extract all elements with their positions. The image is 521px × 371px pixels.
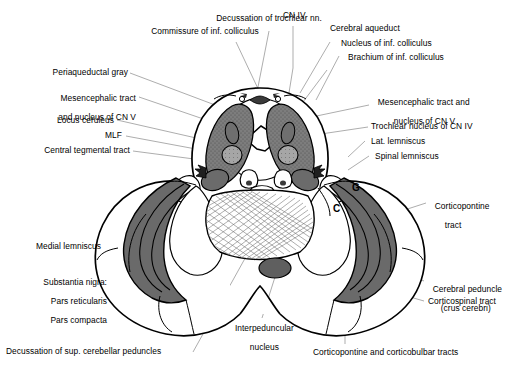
label-brachium-of-inf-colliculus: Brachium of inf. colliculus	[348, 53, 444, 63]
label-central-tegmental-tract: Central tegmental tract	[0, 146, 130, 156]
label-corticopontine-and-corticobulbar-tracts: Corticopontine and corticobulbar tracts	[313, 348, 458, 358]
label-corticospinal-tract: Corticospinal tract	[428, 297, 496, 307]
right-trochlear-nucleus	[280, 180, 286, 185]
label-cerebral-aqueduct: Cerebral aqueduct	[330, 24, 400, 34]
label-line-1: Corticopontine	[435, 201, 490, 211]
label-line-3: Pars compacta	[50, 315, 107, 325]
label-line-1: Substantia nigra:	[43, 277, 107, 287]
midbrain-cross-section-figure: Decussation of trochlear nn. Commissure …	[0, 0, 521, 371]
right-locus-ceruleus	[278, 146, 298, 165]
region-letter-g: G	[352, 182, 360, 193]
label-corticopontine-tract: Corticopontine tract	[430, 192, 489, 230]
left-trochlear-nucleus	[246, 180, 252, 185]
label-line-1: Interpeduncular	[235, 323, 294, 333]
label-commissure-of-inf-colliculus: Commissure of inf. colliculus	[100, 27, 310, 37]
label-spinal-lemniscus: Spinal lemniscus	[375, 152, 439, 162]
label-periaqueductal-gray: Periaqueductal gray	[0, 68, 128, 78]
label-line-2: nucleus	[250, 342, 279, 352]
label-locus-ceruleus: Locus ceruleus	[0, 116, 114, 126]
left-locus-ceruleus	[222, 146, 242, 165]
label-line-1: Mesencephalic tract	[61, 93, 136, 103]
label-line-2: tract	[435, 221, 462, 231]
region-letter-c: C	[333, 203, 340, 214]
label-line-2: Pars reticularis	[51, 296, 107, 306]
label-medial-lemniscus: Medial lemniscus	[0, 242, 101, 252]
label-substantia-nigra: Substantia nigra: Pars reticularis Pars …	[0, 268, 107, 326]
label-nucleus-of-inf-colliculus: Nucleus of inf. colliculus	[341, 39, 432, 49]
label-decussation-of-sup-cerebellar-peduncles: Decussation of sup. cerebellar peduncles	[6, 347, 161, 357]
label-line-1: Mesencephalic tract and	[378, 97, 470, 107]
interpeduncular-fossa	[240, 286, 280, 314]
label-interpeduncular-nucleus: Interpeduncular nucleus	[203, 314, 321, 352]
label-lat-lemniscus: Lat. lemniscus	[371, 137, 425, 147]
interpeduncular-nucleus-shape	[259, 258, 291, 278]
label-trochlear-nucleus-of-cn-iv: Trochlear nucleus of CN IV	[371, 122, 473, 132]
label-cn-iv: CN IV	[283, 11, 306, 21]
label-cerebral-peduncle: Cerebral peduncle (crus cerebri)	[428, 275, 502, 313]
label-line-1: Cerebral peduncle	[433, 284, 502, 294]
label-mlf: MLF	[0, 131, 122, 141]
